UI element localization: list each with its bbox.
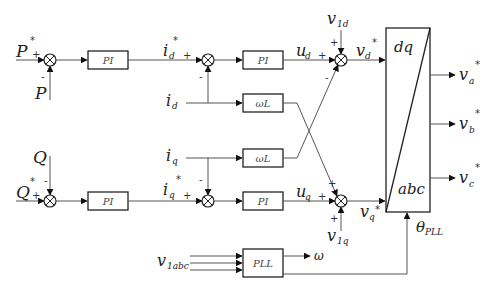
vq-ref-star: * — [375, 204, 380, 215]
ud-sub: d — [305, 51, 311, 61]
va-star: * — [475, 59, 480, 70]
vc-star: * — [475, 162, 480, 173]
q-meas-label: Q — [33, 147, 47, 167]
v1q-plus: + — [330, 213, 338, 224]
v1d-sub: 1d — [337, 19, 349, 29]
omega-label: ω — [314, 249, 324, 263]
vd-ref-label: v — [356, 41, 365, 60]
sum-junction-vd — [335, 54, 347, 66]
v1abc-sub: 1abc — [167, 261, 189, 271]
wl-q-label: ωL — [256, 153, 271, 164]
v1abc-label: v — [157, 251, 166, 270]
iq-sub: q — [172, 156, 178, 166]
v1d-label: v — [327, 9, 336, 28]
va-label: v — [459, 65, 468, 84]
vq-cross-plus: + — [328, 178, 336, 189]
iq-ref-label: i — [163, 180, 168, 199]
va-sub: a — [469, 76, 474, 86]
p-meas-label: P — [34, 83, 47, 103]
dq-label: dq — [394, 38, 413, 56]
q-ref-label: Q — [16, 182, 30, 202]
q-ref-plus: + — [32, 190, 40, 201]
pi-d-label: PI — [257, 55, 270, 66]
uq-plus: + — [318, 191, 326, 202]
iq-label: i — [166, 146, 171, 165]
sum-junction-vq — [335, 195, 347, 207]
theta-label: θ — [416, 218, 425, 236]
id-ref-sub: d — [169, 51, 175, 61]
v1d-plus: + — [330, 37, 338, 48]
uq-sub: q — [305, 192, 311, 202]
iq-ref-star: * — [176, 174, 181, 185]
pi-p-label: PI — [102, 55, 115, 66]
theta-sub: PLL — [424, 227, 443, 237]
wl-q-to-vd-line — [283, 65, 338, 158]
pi-q-label: PI — [102, 196, 115, 207]
id-ref-label: i — [163, 41, 168, 60]
sum-junction-p — [44, 54, 56, 66]
vd-minus: - — [325, 72, 329, 83]
v1q-sub: 1q — [337, 236, 349, 246]
vd-ref-sub: d — [365, 51, 371, 61]
sum-junction-q — [44, 195, 56, 207]
id-ref-star: * — [173, 35, 178, 46]
p-ref-plus: + — [32, 49, 40, 60]
id-sub: d — [172, 101, 178, 111]
pi-iq-label: PI — [257, 196, 270, 207]
q-minus: - — [44, 175, 48, 186]
q-ref-star: * — [30, 176, 35, 187]
iq-minus: - — [199, 174, 203, 185]
vc-label: v — [459, 168, 468, 187]
vb-label: v — [459, 114, 468, 133]
vc-sub: c — [469, 179, 474, 189]
wl-d-label: ωL — [256, 98, 271, 109]
vq-ref-label: v — [360, 202, 369, 221]
id-minus: - — [199, 71, 203, 82]
abc-label: abc — [398, 180, 426, 198]
vb-star: * — [475, 108, 480, 119]
p-minus: - — [41, 71, 45, 82]
v1q-label: v — [327, 226, 336, 245]
ud-plus: + — [318, 50, 326, 61]
vd-ref-star: * — [372, 37, 377, 48]
pll-label: PLL — [252, 258, 273, 269]
p-ref-label: P — [15, 41, 28, 61]
sum-junction-id — [202, 54, 214, 66]
p-ref-star: * — [30, 35, 35, 46]
iq-ref-plus: + — [183, 190, 191, 201]
iq-ref-sub: q — [169, 190, 175, 200]
id-label: i — [166, 91, 171, 110]
id-ref-plus: + — [183, 50, 191, 61]
control-diagram: PI PI ωL ωL PI PI PLL dq abc P * + - P i… — [0, 0, 490, 289]
vb-sub: b — [469, 125, 475, 135]
sum-junction-iq — [202, 195, 214, 207]
